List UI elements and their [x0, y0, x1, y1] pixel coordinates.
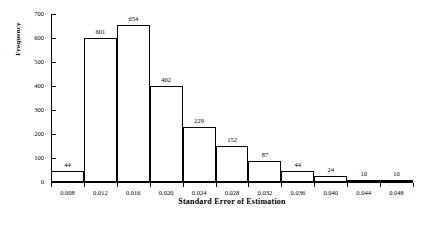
histogram-bar: [183, 127, 216, 182]
y-tick-label: 500: [34, 59, 44, 66]
y-tick-mark: [52, 62, 56, 63]
histogram-figure: Frequency 0100200300400500600700 0.0080.…: [0, 0, 437, 231]
x-tick-label: 0.048: [389, 190, 404, 197]
x-tick-mark: [51, 183, 52, 187]
bar-value-label: 44: [295, 162, 302, 169]
histogram-bar: [150, 86, 183, 182]
x-tick-mark: [84, 183, 85, 187]
histogram-bar: [248, 161, 281, 182]
x-tick-mark: [314, 183, 315, 187]
x-tick-label: 0.008: [60, 190, 75, 197]
histogram-bar: [84, 38, 117, 182]
x-tick-label: 0.044: [356, 190, 371, 197]
bar-value-label: 10: [360, 171, 367, 178]
x-tick-label: 0.024: [192, 190, 207, 197]
y-tick-label: 600: [34, 35, 44, 42]
x-tick-mark: [281, 183, 282, 187]
bar-value-label: 87: [262, 152, 269, 159]
x-tick-label: 0.012: [93, 190, 108, 197]
bar-value-label: 152: [227, 137, 237, 144]
bar-value-label: 654: [128, 16, 138, 23]
y-tick-label: 700: [34, 11, 44, 18]
x-tick-mark: [380, 183, 381, 187]
x-tick-mark: [413, 183, 414, 187]
x-axis-line: [51, 182, 413, 183]
histogram-bar: [347, 180, 380, 182]
histogram-bar: [281, 171, 314, 182]
x-tick-label: 0.036: [291, 190, 306, 197]
x-tick-label: 0.016: [126, 190, 141, 197]
x-tick-mark: [347, 183, 348, 187]
x-axis-title: Standard Error of Estimation: [51, 197, 413, 206]
bar-value-label: 10: [393, 171, 400, 178]
x-tick-label: 0.020: [159, 190, 174, 197]
x-tick-mark: [150, 183, 151, 187]
y-tick-label: 200: [34, 131, 44, 138]
x-tick-label: 0.028: [225, 190, 240, 197]
y-tick-mark: [52, 134, 56, 135]
y-tick-label: 100: [34, 155, 44, 162]
y-tick-mark: [52, 86, 56, 87]
histogram-bar: [380, 180, 413, 182]
bar-value-label: 402: [161, 77, 171, 84]
y-axis-title: Frequency: [14, 0, 26, 84]
x-tick-mark: [183, 183, 184, 187]
x-tick-mark: [248, 183, 249, 187]
x-tick-label: 0.040: [323, 190, 338, 197]
bar-value-label: 229: [194, 118, 204, 125]
histogram-bar: [216, 146, 249, 182]
histogram-bar: [314, 176, 347, 182]
y-tick-label: 300: [34, 107, 44, 114]
histogram-bar: [51, 171, 84, 182]
y-tick-mark: [52, 182, 56, 183]
y-tick-label: 0: [41, 179, 44, 186]
x-tick-mark: [216, 183, 217, 187]
bar-value-label: 44: [64, 162, 71, 169]
y-tick-mark: [52, 110, 56, 111]
y-axis-line: [51, 14, 52, 182]
bar-value-label: 24: [327, 167, 334, 174]
y-tick-mark: [52, 38, 56, 39]
plot-area: 0100200300400500600700 0.0080.0120.0160.…: [51, 14, 413, 182]
y-tick-mark: [52, 158, 56, 159]
x-tick-mark: [117, 183, 118, 187]
histogram-bar: [117, 25, 150, 182]
y-tick-mark: [52, 14, 56, 15]
x-tick-label: 0.032: [258, 190, 273, 197]
y-tick-label: 400: [34, 83, 44, 90]
bar-value-label: 601: [95, 29, 105, 36]
